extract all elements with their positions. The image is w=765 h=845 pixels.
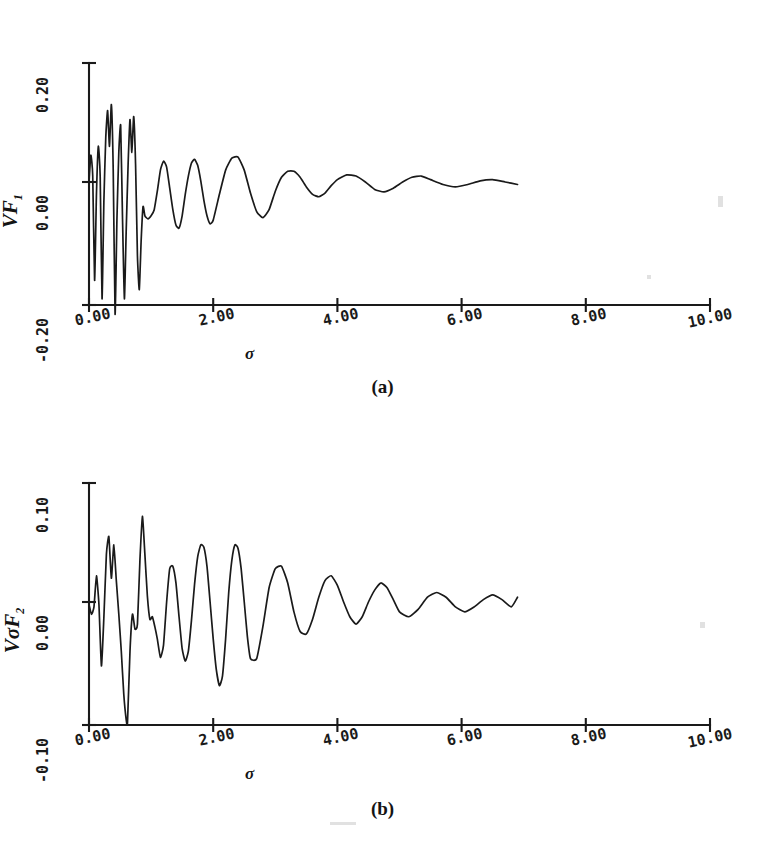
y-axis-label-b-f: F <box>0 614 24 628</box>
x-axis-label-b: σ <box>245 764 254 784</box>
panel-a: VF1 0.20 0.00 -0.20 0.00 2.00 4.00 6.00 … <box>0 0 765 422</box>
y-tick-label-a-2: -0.20 <box>34 318 52 363</box>
scan-speck <box>718 196 723 207</box>
x-axis-label-a: σ <box>245 344 254 364</box>
plot-svg-b <box>0 420 765 770</box>
y-tick-label-b-1: 0.00 <box>34 615 52 651</box>
scan-speck <box>330 822 356 825</box>
y-tick-label-a-0: 0.20 <box>34 77 52 113</box>
y-tick-label-b-0: 0.10 <box>34 497 52 533</box>
plot-area-a <box>0 0 765 350</box>
y-tick-label-a-1: 0.00 <box>34 195 52 231</box>
y-axis-label-a-sub: 1 <box>11 194 25 200</box>
panel-caption-b: (b) <box>0 798 765 820</box>
y-tick-label-b-2: -0.10 <box>34 738 52 783</box>
y-axis-label-b: VσF2 <box>0 608 28 653</box>
panel-caption-a: (a) <box>0 376 765 398</box>
scan-speck <box>647 275 651 279</box>
plot-svg-a <box>0 0 765 350</box>
panel-b: VσF2 0.10 0.00 -0.10 0.00 2.00 4.00 6.00… <box>0 420 765 842</box>
plot-area-b <box>0 420 765 770</box>
y-axis-label-b-sub: 2 <box>13 608 27 614</box>
y-axis-label-a-v: V <box>0 214 22 228</box>
scan-speck <box>700 622 705 628</box>
y-axis-label-a-f: F <box>0 200 22 214</box>
y-axis-label-b-v: Vσ <box>0 628 24 653</box>
y-axis-label-a: VF1 <box>0 194 26 228</box>
figure-page: VF1 0.20 0.00 -0.20 0.00 2.00 4.00 6.00 … <box>0 0 765 845</box>
